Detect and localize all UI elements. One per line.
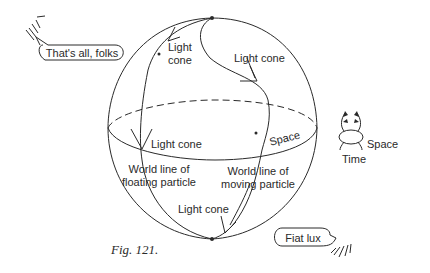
bubble-beginning-text: Fiat lux <box>277 229 329 246</box>
label-world-line-moving: World line of moving particle <box>221 165 295 191</box>
light-cone-arrow-top-left <box>168 27 180 41</box>
space-time-legend-glyph <box>339 113 363 150</box>
label-light-cone-top-left-line2: cone <box>168 54 192 67</box>
bottom-point <box>210 237 214 241</box>
light-cone-arrow-top-right <box>240 66 257 81</box>
label-world-line-floating: World line of floating particle <box>122 163 196 189</box>
floating-mark <box>158 53 161 56</box>
legend-time-label: Time <box>342 153 366 166</box>
label-world-line-floating-line2: floating particle <box>122 176 196 189</box>
label-light-cone-equator: Light cone <box>151 138 202 151</box>
figure-caption: Fig. 121. <box>111 242 158 258</box>
light-cone-v-equator <box>131 129 152 149</box>
spacetime-sphere-diagram: Light cone Light cone Light cone Space W… <box>0 0 430 273</box>
label-light-cone-top-left: Light cone <box>168 41 192 67</box>
legend-space-label: Space <box>367 138 398 151</box>
top-point <box>210 16 214 20</box>
bubble-end-text: That's all, folks <box>42 45 122 60</box>
label-world-line-moving-line1: World line of <box>221 165 295 178</box>
label-world-line-moving-line2: moving particle <box>221 178 295 191</box>
label-light-cone-bottom: Light cone <box>178 203 229 216</box>
label-light-cone-top-left-line1: Light <box>168 41 192 54</box>
diagram-drawing <box>0 0 430 273</box>
label-world-line-floating-line1: World line of <box>122 163 196 176</box>
moving-mark <box>255 132 258 135</box>
legend-arrowheads <box>343 111 359 123</box>
equator-back <box>108 100 317 128</box>
label-light-cone-top-right: Light cone <box>234 52 285 65</box>
